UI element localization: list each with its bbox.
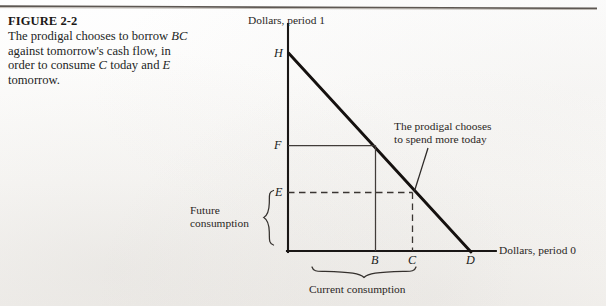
x-axis-label: Dollars, period 0	[499, 244, 576, 256]
annotation-prodigal: The prodigal chooses to spend more today	[394, 120, 491, 147]
annotation-line-2: to spend more today	[394, 133, 487, 145]
point-label-c: C	[408, 253, 416, 268]
point-label-e: E	[275, 185, 282, 200]
future-consumption-line-1: Future	[190, 204, 220, 216]
future-consumption-line-2: consumption	[190, 217, 249, 229]
point-label-d: D	[466, 253, 475, 268]
label-future-consumption: Future consumption	[190, 204, 249, 230]
budget-constraint-chart: Dollars, period 1 Dollars, period 0 H F …	[0, 0, 606, 306]
annotation-line-1: The prodigal chooses	[394, 120, 491, 132]
annotation-leader-line	[415, 148, 429, 191]
point-label-h: H	[274, 46, 283, 61]
brace-future-consumption	[264, 191, 274, 246]
y-axis-label: Dollars, period 1	[248, 14, 325, 26]
budget-line	[289, 53, 472, 252]
point-label-f: F	[274, 138, 281, 153]
brace-current-consumption	[312, 267, 416, 278]
label-current-consumption: Current consumption	[309, 283, 406, 296]
figure-page: FIGURE 2-2 The prodigal chooses to borro…	[0, 0, 606, 306]
point-label-b: B	[371, 253, 378, 268]
chart-svg	[0, 0, 606, 306]
